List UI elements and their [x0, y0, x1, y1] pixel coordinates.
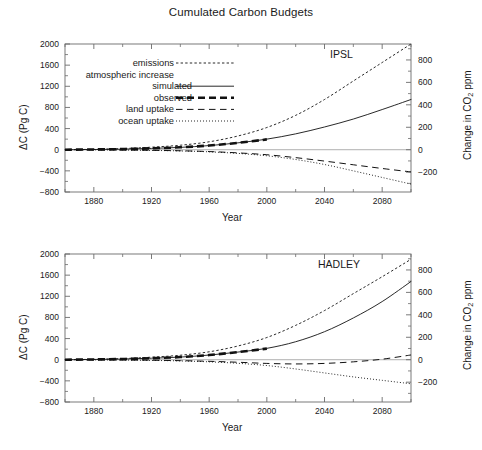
svg-text:400: 400: [45, 334, 59, 344]
y-axis-label-right-unit: ppm: [462, 280, 473, 302]
svg-text:2040: 2040: [315, 406, 334, 416]
svg-text:−800: −800: [40, 187, 59, 197]
svg-text:2080: 2080: [373, 406, 392, 416]
series-atmospheric-increase-observed: [65, 349, 267, 360]
panel-tag-ipsl: IPSL: [330, 48, 353, 60]
series-emissions: [65, 259, 411, 359]
figure-root: Cumulated Carbon Budgets 200016001200800…: [0, 0, 482, 450]
svg-text:−400: −400: [40, 166, 59, 176]
plot-area-ipsl: 2000160012008004000−400−8008006004002000…: [0, 30, 482, 230]
svg-text:1200: 1200: [40, 81, 59, 91]
plot-area-hadley: 2000160012008004000−400−8008006004002000…: [0, 240, 482, 440]
svg-text:1960: 1960: [200, 406, 219, 416]
x-axis-label-hadley: Year: [222, 422, 242, 433]
panel-tag-hadley: HADLEY: [318, 258, 360, 270]
svg-text:400: 400: [418, 100, 432, 110]
svg-text:0: 0: [418, 355, 423, 365]
series-atmospheric-increase-simulated: [65, 281, 411, 359]
y-axis-label-left-hadley: ΔC (Pg C): [18, 314, 29, 360]
svg-text:−200: −200: [418, 377, 437, 387]
svg-text:0: 0: [54, 145, 59, 155]
svg-text:−800: −800: [40, 397, 59, 407]
svg-text:200: 200: [418, 332, 432, 342]
y-axis-label-right-ipsl: Change in CO2 ppm: [462, 70, 475, 160]
series-ocean-uptake: [65, 150, 411, 184]
svg-text:1880: 1880: [84, 196, 103, 206]
series-land-uptake: [65, 150, 411, 172]
series-ocean-uptake: [65, 360, 411, 384]
legend-label-atmospheric-increase: atmospheric increase: [86, 70, 174, 80]
svg-text:200: 200: [418, 122, 432, 132]
svg-text:−400: −400: [40, 376, 59, 386]
svg-text:0: 0: [54, 355, 59, 365]
svg-text:800: 800: [418, 55, 432, 65]
svg-text:800: 800: [45, 102, 59, 112]
y-axis-label-right-unit: ppm: [462, 70, 473, 92]
svg-text:600: 600: [418, 287, 432, 297]
svg-text:2000: 2000: [257, 406, 276, 416]
svg-text:2000: 2000: [257, 196, 276, 206]
legend-label-observed: observed: [154, 93, 192, 103]
y-axis-label-right-text: Change in CO: [462, 307, 473, 370]
legend-label-ocean-uptake: ocean uptake: [118, 116, 174, 126]
figure-title: Cumulated Carbon Budgets: [0, 6, 482, 18]
svg-text:2080: 2080: [373, 196, 392, 206]
series-atmospheric-increase-observed: [65, 139, 267, 149]
svg-text:1600: 1600: [40, 270, 59, 280]
svg-text:1600: 1600: [40, 60, 59, 70]
co2-subscript: 2: [466, 303, 475, 307]
panel-ipsl: 2000160012008004000−400−8008006004002000…: [0, 30, 482, 230]
panel-hadley: 2000160012008004000−400−8008006004002000…: [0, 240, 482, 440]
svg-text:400: 400: [45, 124, 59, 134]
series-emissions: [65, 44, 411, 150]
series-atmospheric-increase-simulated: [65, 100, 411, 150]
svg-text:600: 600: [418, 77, 432, 87]
svg-text:1920: 1920: [142, 406, 161, 416]
svg-text:800: 800: [45, 312, 59, 322]
svg-text:400: 400: [418, 310, 432, 320]
legend-label-land-uptake: land uptake: [126, 104, 174, 114]
co2-subscript: 2: [466, 93, 475, 97]
x-axis-label-ipsl: Year: [222, 212, 242, 223]
y-axis-label-right-hadley: Change in CO2 ppm: [462, 280, 475, 370]
svg-text:1920: 1920: [142, 196, 161, 206]
svg-text:2000: 2000: [40, 249, 59, 259]
legend-label-emissions: emissions: [133, 58, 175, 68]
svg-text:1880: 1880: [84, 406, 103, 416]
svg-text:800: 800: [418, 265, 432, 275]
svg-text:−200: −200: [418, 167, 437, 177]
svg-text:2040: 2040: [315, 196, 334, 206]
svg-text:1200: 1200: [40, 291, 59, 301]
svg-text:1960: 1960: [200, 196, 219, 206]
svg-text:2000: 2000: [40, 39, 59, 49]
y-axis-label-right-text: Change in CO: [462, 97, 473, 160]
svg-text:0: 0: [418, 145, 423, 155]
y-axis-label-left-ipsl: ΔC (Pg C): [18, 104, 29, 150]
